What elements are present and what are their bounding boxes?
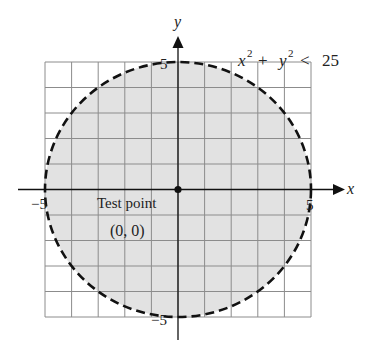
ineq-y-exp: 2 (288, 47, 294, 59)
test-point-marker (174, 186, 181, 193)
ineq-plus: + (258, 51, 268, 70)
inequality-label: x 2 + y 2 < 25 (237, 47, 339, 70)
ineq-rhs: 25 (322, 51, 339, 70)
ineq-rel: < (300, 51, 310, 70)
ineq-y-var: y (277, 51, 287, 70)
graph-canvas: y x 5 −5 −5 5 Test point (0, 0) x 2 + y … (0, 0, 368, 358)
tick-y-min: −5 (151, 312, 167, 328)
tick-x-min: −5 (31, 196, 47, 212)
x-axis-label: x (346, 180, 354, 197)
test-point-label: Test point (97, 195, 157, 211)
ineq-x-var: x (237, 51, 246, 70)
tick-x-max: 5 (306, 197, 314, 213)
tick-y-max: 5 (160, 56, 168, 72)
x-axis-arrow-icon (333, 184, 345, 195)
test-point-coords: (0, 0) (110, 222, 145, 240)
ineq-x-exp: 2 (247, 47, 253, 59)
y-axis-arrow-icon (173, 36, 184, 48)
y-axis-label: y (172, 13, 182, 31)
